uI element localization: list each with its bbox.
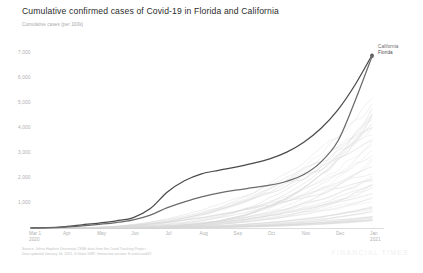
x-axis-tick: Jul — [165, 231, 171, 236]
x-axis-tick: May — [97, 231, 106, 236]
x-axis-tick-month: Oct — [268, 231, 275, 236]
x-axis-tick: Apr — [63, 231, 70, 236]
y-axis-tick: 4,000 — [18, 125, 31, 130]
chart-source-note: Source: Johns Hopkins University CSSE da… — [22, 247, 151, 257]
series-line-california — [31, 56, 372, 228]
source-line-2: Data updated January 16, 2021, 6:10am GM… — [22, 252, 151, 257]
y-axis-tick: 3,000 — [18, 150, 31, 155]
x-axis-tick-month: Mar 1 — [29, 231, 41, 236]
x-axis-tick-month: Apr — [63, 231, 70, 236]
legend-item-florida[interactable]: Florida — [378, 50, 393, 55]
x-axis-tick-month: May — [97, 231, 106, 236]
x-axis-tick-month: Dec — [336, 231, 344, 236]
x-axis-tick: Dec — [336, 231, 344, 236]
highlighted-series-group — [31, 53, 374, 227]
x-axis-tick: Jun — [131, 231, 139, 236]
x-axis-tick-month: Aug — [200, 231, 208, 236]
y-axis-tick: 7,000 — [18, 50, 31, 55]
x-axis-tick: Sep — [234, 231, 242, 236]
x-axis-tick: Nov — [302, 231, 310, 236]
x-axis-tick-month: Jun — [131, 231, 139, 236]
y-axis-tick: 6,000 — [18, 75, 31, 80]
y-axis-tick: 1,000 — [18, 200, 31, 205]
x-axis-tick-year: 2021 — [370, 237, 381, 242]
background-state-line — [31, 186, 372, 228]
x-axis-tick: Oct — [268, 231, 275, 236]
x-axis-tick-month: Sep — [234, 231, 242, 236]
background-state-line — [31, 128, 372, 228]
background-state-lines — [31, 98, 372, 228]
x-axis-tick: Jan2021 — [370, 231, 381, 242]
series-endpoint-california — [370, 55, 373, 58]
y-axis-tick: 5,000 — [18, 100, 31, 105]
chart-container: Cumulative confirmed cases of Covid-19 i… — [0, 0, 423, 273]
y-axis-tick: 2,000 — [18, 175, 31, 180]
legend-item-california[interactable]: California — [378, 44, 398, 49]
x-axis-tick-month: Jul — [165, 231, 171, 236]
x-axis-tick-year: 2020 — [29, 237, 41, 242]
background-state-line — [31, 124, 372, 228]
series-line-florida — [31, 55, 372, 228]
background-state-line — [31, 98, 372, 228]
x-axis-tick-month: Nov — [302, 231, 310, 236]
x-axis-tick: Mar 12020 — [29, 231, 41, 242]
publisher-watermark: FINANCIAL TIMES — [331, 249, 409, 256]
x-axis-tick-month: Jan — [370, 231, 378, 236]
x-axis-tick: Aug — [200, 231, 208, 236]
